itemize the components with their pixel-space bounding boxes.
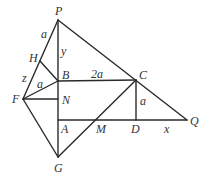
- segment-PQ: [58, 20, 187, 120]
- geometry-diagram: P H B C F N A M D Q G a y z a 2a a x: [0, 0, 208, 184]
- measure-PH: a: [41, 27, 47, 41]
- label-F: F: [11, 92, 20, 106]
- measure-PB: y: [60, 44, 67, 58]
- segments: [23, 20, 187, 157]
- measure-DQ: x: [163, 122, 170, 136]
- measure-BC: 2a: [91, 67, 103, 81]
- label-C: C: [139, 68, 148, 82]
- label-H: H: [28, 51, 39, 65]
- diagram-canvas: P H B C F N A M D Q G a y z a 2a a x: [0, 0, 208, 184]
- segment-GC: [58, 80, 136, 157]
- label-N: N: [61, 93, 71, 107]
- label-M: M: [95, 122, 107, 136]
- measure-CD: a: [140, 94, 146, 108]
- segment-FG: [23, 99, 58, 157]
- label-A: A: [60, 122, 69, 136]
- measure-FB: a: [37, 77, 43, 91]
- label-Q: Q: [190, 114, 199, 128]
- label-P: P: [54, 4, 63, 18]
- label-B: B: [62, 68, 70, 82]
- label-D: D: [130, 122, 140, 136]
- label-G: G: [54, 161, 63, 175]
- measure-HF: z: [21, 71, 27, 85]
